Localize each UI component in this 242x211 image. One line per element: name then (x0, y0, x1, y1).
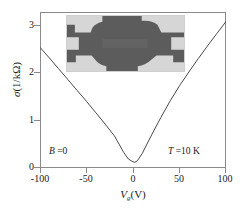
x-tick-label-neg50: -50 (66, 174, 106, 184)
x-tick-label-neg100: -100 (20, 174, 60, 184)
y-axis-symbol: σ (10, 92, 22, 97)
micrograph-svg (67, 16, 184, 71)
y-tick-label-0: 0 (8, 162, 34, 172)
y-tick-1 (34, 120, 40, 121)
y-axis-title: σ(1/kΩ) (11, 28, 22, 132)
figure-panel: 3 2 1 0 -100 -50 0 50 100 σ(1/kΩ) Vg(V) … (0, 0, 242, 211)
annotation-b-value: =0 (55, 146, 67, 156)
annotation-t-value: =10 K (173, 146, 199, 156)
x-tick-label-100: 100 (205, 174, 242, 184)
x-axis-symbol: V (120, 188, 127, 200)
x-tick-label-50: 50 (159, 174, 199, 184)
device-micrograph-inset (66, 15, 185, 72)
y-tick-3 (34, 25, 40, 26)
annotation-magnetic-field: B =0 (49, 146, 67, 156)
hall-bar-channel (102, 39, 147, 48)
y-tick-2 (34, 72, 40, 73)
y-axis-units: (1/kΩ) (10, 62, 22, 92)
annotation-temperature: T =10 K (168, 146, 200, 156)
x-axis-units: (V) (130, 188, 145, 200)
electrode-right-middle (171, 37, 184, 50)
x-tick-label-0: 0 (113, 174, 153, 184)
x-axis-title: Vg(V) (71, 189, 195, 204)
electrode-left-middle (67, 37, 79, 50)
